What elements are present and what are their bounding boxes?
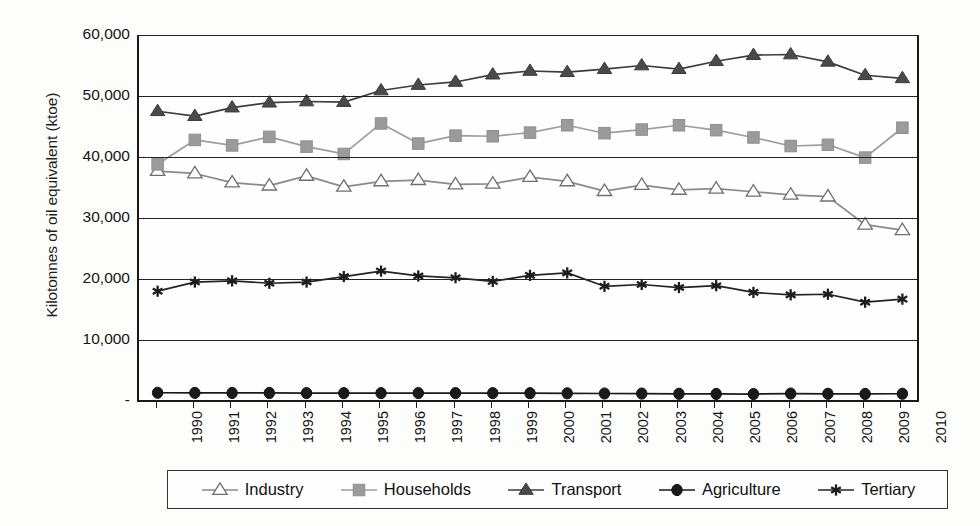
x-axis-tick-mark [416, 401, 417, 408]
x-axis-tick-mark [714, 401, 715, 408]
x-axis-tick-label: 1998 [487, 411, 503, 477]
series-households [152, 118, 908, 170]
x-axis-tick-label: 1999 [524, 411, 540, 477]
x-axis-tick-mark [379, 401, 380, 408]
legend-label: Industry [245, 480, 304, 499]
x-axis-tick-mark [863, 401, 864, 408]
legend-label: Transport [551, 480, 621, 499]
gridline [139, 218, 917, 219]
x-axis-tick-mark [454, 401, 455, 408]
x-axis-tick-mark [789, 401, 790, 408]
x-axis-tick-mark [528, 401, 529, 408]
x-axis-tick-mark [230, 401, 231, 408]
x-axis-tick-label: 2001 [598, 411, 614, 477]
x-axis-tick-mark [565, 401, 566, 408]
legend-label: Agriculture [702, 480, 781, 499]
y-axis-tick-label: 10,000 [38, 330, 130, 348]
x-axis-tick-label: 2003 [673, 411, 689, 477]
legend-label: Households [384, 480, 471, 499]
x-axis-tick-label: 1990 [189, 411, 205, 477]
x-axis-tick-mark [193, 401, 194, 408]
y-axis-tick-label: 60,000 [38, 25, 130, 43]
filled-circle-icon [657, 480, 697, 500]
gridline [139, 279, 917, 280]
x-axis-tick-label: 2010 [933, 411, 949, 477]
x-axis-tick-mark [900, 401, 901, 408]
x-axis-tick-mark [751, 401, 752, 408]
x-axis-tick-label: 1991 [226, 411, 242, 477]
x-axis-tick-label: 2005 [747, 411, 763, 477]
series-industry [150, 164, 909, 235]
x-axis-tick-label: 2002 [635, 411, 651, 477]
gridline [139, 157, 917, 158]
legend-item-transport[interactable]: Transport [506, 480, 621, 500]
chart-legend: IndustryHouseholdsTransportAgricultureTe… [167, 470, 948, 509]
x-axis-tick-label: 1996 [412, 411, 428, 477]
x-axis-tick-label: 2000 [561, 411, 577, 477]
series-tertiary [153, 265, 907, 307]
x-axis-tick-mark [156, 401, 157, 408]
legend-label: Tertiary [861, 480, 915, 499]
x-axis-tick-mark [826, 401, 827, 408]
x-axis-tick-mark [602, 401, 603, 408]
x-axis-ticks: 1990199119921993199419951996199719981999… [137, 401, 919, 467]
legend-item-tertiary[interactable]: Tertiary [816, 480, 915, 500]
x-axis-tick-label: 2007 [822, 411, 838, 477]
x-axis-tick-label: 1992 [263, 411, 279, 477]
x-axis-tick-label: 2004 [710, 411, 726, 477]
y-axis-ticks: -10,00020,00030,00040,00050,00060,000 [26, 35, 130, 401]
gridline [139, 96, 917, 97]
x-axis-tick-label: 1993 [300, 411, 316, 477]
x-axis-tick-mark [491, 401, 492, 408]
legend-item-industry[interactable]: Industry [200, 480, 304, 500]
gridline [139, 35, 917, 36]
x-axis-tick-mark [342, 401, 343, 408]
filled-triangle-icon [506, 480, 546, 500]
y-axis-tick-label: 20,000 [38, 269, 130, 287]
y-axis-tick-label: - [38, 391, 130, 409]
x-axis-tick-label: 2009 [896, 411, 912, 477]
series-transport [150, 47, 909, 120]
x-axis-tick-mark [267, 401, 268, 408]
x-axis-tick-label: 2008 [859, 411, 875, 477]
chart-container: Kilotonnes of oil equivalent (ktoe) -10,… [0, 0, 980, 526]
y-axis-tick-label: 40,000 [38, 147, 130, 165]
x-axis-tick-label: 2006 [784, 411, 800, 477]
x-axis-tick-mark [640, 401, 641, 408]
x-axis-tick-label: 1995 [375, 411, 391, 477]
series-agriculture [152, 387, 907, 399]
open-triangle-icon [200, 480, 240, 500]
y-axis-tick-label: 50,000 [38, 86, 130, 104]
y-axis-tick-label: 30,000 [38, 208, 130, 226]
x-axis-tick-label: 1997 [449, 411, 465, 477]
plot-area [137, 35, 919, 401]
x-axis-tick-mark [305, 401, 306, 408]
x-axis-tick-mark [677, 401, 678, 408]
filled-square-icon [339, 480, 379, 500]
gridline [139, 340, 917, 341]
asterisk-icon [816, 480, 856, 500]
x-axis-tick-label: 1994 [338, 411, 354, 477]
legend-item-agriculture[interactable]: Agriculture [657, 480, 781, 500]
legend-item-households[interactable]: Households [339, 480, 471, 500]
